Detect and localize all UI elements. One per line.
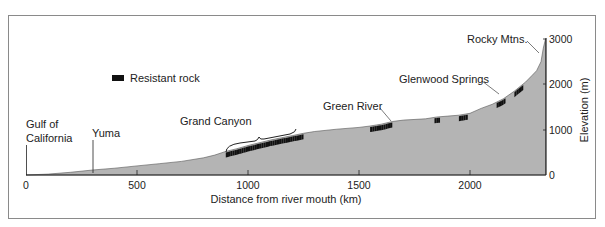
resistant-rock-bar <box>370 127 372 132</box>
resistant-rock-bar <box>237 149 239 155</box>
resistant-rock-bar <box>301 134 303 139</box>
resistant-rock-bar <box>466 115 468 120</box>
annotation-gulf: Gulf of <box>26 118 59 130</box>
resistant-rock-bar <box>463 115 465 120</box>
resistant-rock-bar <box>252 145 254 151</box>
resistant-rock-bar <box>250 145 252 151</box>
x-tick-label: 1500 <box>347 179 371 191</box>
x-tick-label: 500 <box>128 179 146 191</box>
resistant-rock-bar <box>259 143 261 149</box>
resistant-rock-bar <box>299 135 301 140</box>
resistant-rock-bar <box>264 142 266 148</box>
resistant-rock-bar <box>235 150 237 156</box>
annotation-rocky-mtns: Rocky Mtns. <box>467 33 528 45</box>
resistant-rock-bar <box>286 137 288 142</box>
x-axis-label: Distance from river mouth (km) <box>211 193 362 205</box>
x-tick-label: 2000 <box>458 179 482 191</box>
resistant-rock-bar <box>266 142 268 148</box>
resistant-rock-bar <box>295 136 297 141</box>
resistant-rock-bar <box>226 152 228 158</box>
resistant-rock-bar <box>248 146 250 152</box>
legend-label: Resistant rock <box>130 72 200 84</box>
resistant-rock-bar <box>228 151 230 157</box>
resistant-rock-bar <box>297 135 299 140</box>
annotation-yuma: Yuma <box>92 127 121 139</box>
resistant-rock-bar <box>230 151 232 157</box>
resistant-rock-bar <box>383 124 385 130</box>
y-axis-label: Elevation (m) <box>578 78 590 143</box>
y-tick-label: 0 <box>549 169 555 181</box>
x-tick-label: 1000 <box>236 179 260 191</box>
resistant-rock-bar <box>284 138 286 143</box>
resistant-rock-bar <box>246 147 248 153</box>
resistant-rock-bar <box>244 147 246 153</box>
resistant-rock-bar <box>275 140 277 145</box>
resistant-rock-bar <box>459 116 461 121</box>
y-tick-label: 1000 <box>549 124 573 136</box>
resistant-rock-bar <box>461 115 463 120</box>
resistant-rock-bar <box>272 140 274 145</box>
resistant-rock-bar <box>239 148 241 154</box>
resistant-rock-bar <box>268 141 270 147</box>
leader-rocky <box>527 41 539 53</box>
resistant-rock-bar <box>372 126 374 131</box>
leader-glenwood <box>482 81 499 94</box>
resistant-rock-bar <box>270 141 272 146</box>
leader-green-river <box>380 108 391 121</box>
elevation-profile-area <box>26 39 546 175</box>
resistant-rock-bar <box>434 118 436 123</box>
annotation-grand-canyon: Grand Canyon <box>180 115 252 127</box>
resistant-rock-bar <box>277 139 279 144</box>
resistant-rock-bar <box>388 123 390 129</box>
resistant-rock-bar <box>437 118 439 123</box>
resistant-rock-bar <box>390 123 392 129</box>
elevation-profile-chart: 0 500 1000 1500 2000 Distance from river… <box>0 0 605 227</box>
resistant-rock-bar <box>379 125 381 130</box>
y-tick-label: 2000 <box>549 78 573 90</box>
resistant-rock-bar <box>261 143 263 149</box>
annotation-green-river: Green River <box>323 100 383 112</box>
resistant-rock-bar <box>255 144 257 150</box>
resistant-rock-bar <box>281 138 283 143</box>
resistant-rock-bar <box>381 125 383 131</box>
resistant-rock-bar <box>290 137 292 142</box>
legend-swatch-resistant-rock <box>112 75 124 81</box>
resistant-rock-bar <box>386 124 388 130</box>
resistant-rock-bar <box>375 126 377 131</box>
resistant-rock-bar <box>279 139 281 144</box>
resistant-rock-bar <box>232 150 234 156</box>
resistant-rock-bar <box>241 148 243 154</box>
annotation-gulf: California <box>26 132 73 144</box>
resistant-rock-bar <box>292 136 294 141</box>
resistant-rock-bar <box>377 126 379 131</box>
resistant-rock-bar <box>288 137 290 142</box>
resistant-rock-bar <box>439 118 440 123</box>
annotation-glenwood: Glenwood Springs <box>399 73 489 85</box>
y-tick-label: 3000 <box>549 33 573 45</box>
x-tick-label: 0 <box>23 179 29 191</box>
resistant-rock-bar <box>257 144 259 150</box>
